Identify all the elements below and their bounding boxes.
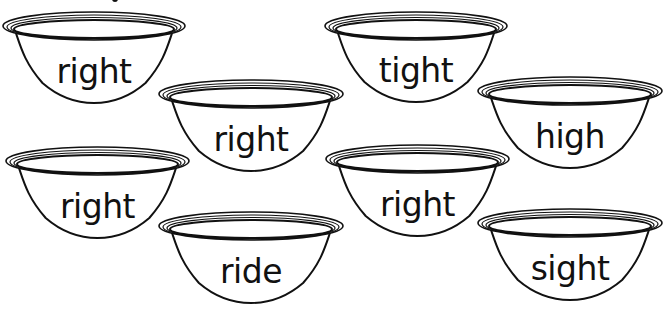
bowl-word: sight <box>477 252 663 285</box>
bowl-7: ride <box>158 210 344 305</box>
bowl-8: sight <box>477 207 663 302</box>
bowl-word: ride <box>158 255 344 288</box>
title-fragment <box>112 0 118 2</box>
